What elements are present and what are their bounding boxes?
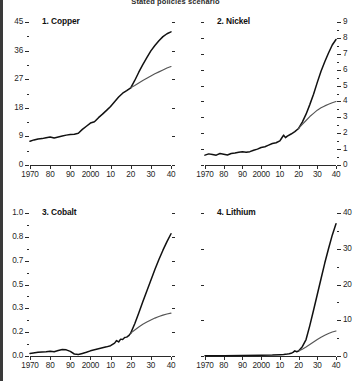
series-line-projection-low — [131, 313, 171, 333]
y-tick-label: 8 — [343, 33, 357, 42]
y-minor-tick — [337, 30, 339, 31]
y-minor-tick — [27, 151, 29, 152]
chart-panel-copper: 1. Copper197080902000102030400918273645 — [30, 22, 171, 165]
y-tick-mirror — [172, 51, 175, 52]
y-tick-mirror — [201, 117, 204, 118]
y-tick-label: 18 — [0, 103, 23, 112]
y-tick-mirror — [172, 356, 175, 357]
y-tick — [25, 285, 29, 286]
y-tick-label: 0.3 — [0, 303, 23, 312]
x-tick — [224, 166, 225, 169]
y-minor-tick — [337, 231, 339, 232]
x-tick — [261, 166, 262, 169]
y-tick-label: 1.0 — [0, 208, 23, 217]
series-line-projection-high — [131, 32, 171, 88]
x-tick — [131, 166, 132, 169]
y-tick — [337, 165, 341, 166]
chart-panel-nickel: 2. Nickel197080902000102030400123456789 — [205, 22, 336, 165]
y-tick — [337, 149, 341, 150]
y-tick-mirror — [201, 249, 204, 250]
y-tick-mirror — [172, 213, 175, 214]
series-layer — [205, 22, 336, 165]
y-tick — [337, 249, 341, 250]
y-tick-label: 4 — [343, 96, 357, 105]
y-tick — [337, 86, 341, 87]
x-tick — [30, 357, 31, 360]
y-tick — [25, 332, 29, 333]
figure-supertitle: Stated policies scenario — [0, 0, 351, 6]
x-tick — [70, 166, 71, 169]
y-tick-label: 1 — [343, 144, 357, 153]
y-tick — [337, 285, 341, 286]
y-tick-label: 3 — [343, 112, 357, 121]
y-minor-tick — [27, 225, 29, 226]
y-tick-label: 0.7 — [0, 256, 23, 265]
series-line-historical — [205, 128, 299, 155]
y-minor-tick — [337, 141, 339, 142]
x-tick — [111, 166, 112, 169]
y-tick-mirror — [201, 38, 204, 39]
x-tick — [317, 166, 318, 169]
series-line-projection-high — [299, 224, 336, 351]
y-minor-tick — [27, 65, 29, 66]
y-tick-label: 0.5 — [0, 280, 23, 289]
y-tick-label: 45 — [0, 17, 23, 26]
y-minor-tick — [27, 36, 29, 37]
y-tick-label: 0.2 — [0, 327, 23, 336]
y-tick-label: 0 — [343, 160, 357, 169]
y-tick — [25, 79, 29, 80]
y-tick — [337, 356, 341, 357]
y-minor-tick — [337, 338, 339, 339]
x-tick — [111, 357, 112, 360]
y-tick — [337, 101, 341, 102]
x-tick — [90, 166, 91, 169]
y-tick — [25, 213, 29, 214]
x-tick-label: 40 — [155, 170, 187, 179]
chart-panel-lithium: 4. Lithium19708090200010203040010203040 — [205, 213, 336, 356]
y-tick-label: 0.0 — [0, 351, 23, 360]
chart-panel-cobalt: 3. Cobalt197080902000102030400.00.20.30.… — [30, 213, 171, 356]
y-tick — [25, 136, 29, 137]
x-tick — [90, 357, 91, 360]
y-minor-tick — [27, 94, 29, 95]
y-tick — [337, 117, 341, 118]
y-tick-label: 0.8 — [0, 232, 23, 241]
y-tick-label: 30 — [343, 244, 357, 253]
x-tick — [50, 166, 51, 169]
series-line-historical — [205, 351, 299, 356]
x-tick-label: 40 — [320, 170, 352, 179]
y-tick — [25, 22, 29, 23]
y-minor-tick — [27, 296, 29, 297]
y-tick-label: 40 — [343, 208, 357, 217]
y-tick-mirror — [172, 165, 175, 166]
y-tick — [25, 51, 29, 52]
y-tick-mirror — [201, 213, 204, 214]
y-tick — [337, 320, 341, 321]
y-minor-tick — [27, 320, 29, 321]
series-layer — [30, 22, 171, 165]
x-tick — [299, 357, 300, 360]
y-tick — [25, 237, 29, 238]
x-tick — [242, 357, 243, 360]
y-tick-mirror — [201, 22, 204, 23]
y-tick-mirror — [172, 332, 175, 333]
y-minor-tick — [337, 267, 339, 268]
x-tick — [70, 357, 71, 360]
y-tick — [337, 70, 341, 71]
y-tick-label: 20 — [343, 280, 357, 289]
x-tick — [336, 166, 337, 169]
y-minor-tick — [27, 344, 29, 345]
x-tick — [261, 357, 262, 360]
left-border-strip — [0, 0, 3, 381]
y-minor-tick — [337, 78, 339, 79]
x-tick — [171, 166, 172, 169]
x-tick-label: 40 — [320, 361, 352, 370]
series-layer — [30, 213, 171, 356]
x-tick — [205, 357, 206, 360]
series-line-projection-high — [131, 234, 171, 333]
y-tick — [25, 261, 29, 262]
y-tick-mirror — [172, 237, 175, 238]
series-line-historical — [30, 88, 131, 141]
y-tick — [337, 133, 341, 134]
y-tick-mirror — [172, 308, 175, 309]
